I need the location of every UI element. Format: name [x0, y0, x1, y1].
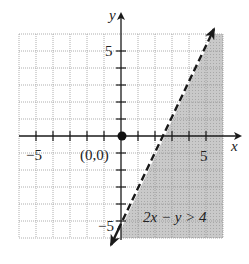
inequality-label: 2x − y > 4 [143, 209, 207, 225]
inequality-graph: y x 5 −5 −5 5 (0,0) 2x − y > 4 [0, 0, 249, 264]
test-point-origin [118, 132, 127, 141]
x-tick-label-neg5: −5 [26, 147, 42, 163]
x-tick-label-5: 5 [200, 148, 208, 164]
x-axis-label: x [230, 138, 238, 154]
y-tick-label-neg5: −5 [98, 218, 114, 234]
y-axis-label: y [107, 7, 116, 23]
y-tick-label-5: 5 [105, 43, 113, 59]
origin-label: (0,0) [80, 147, 109, 164]
